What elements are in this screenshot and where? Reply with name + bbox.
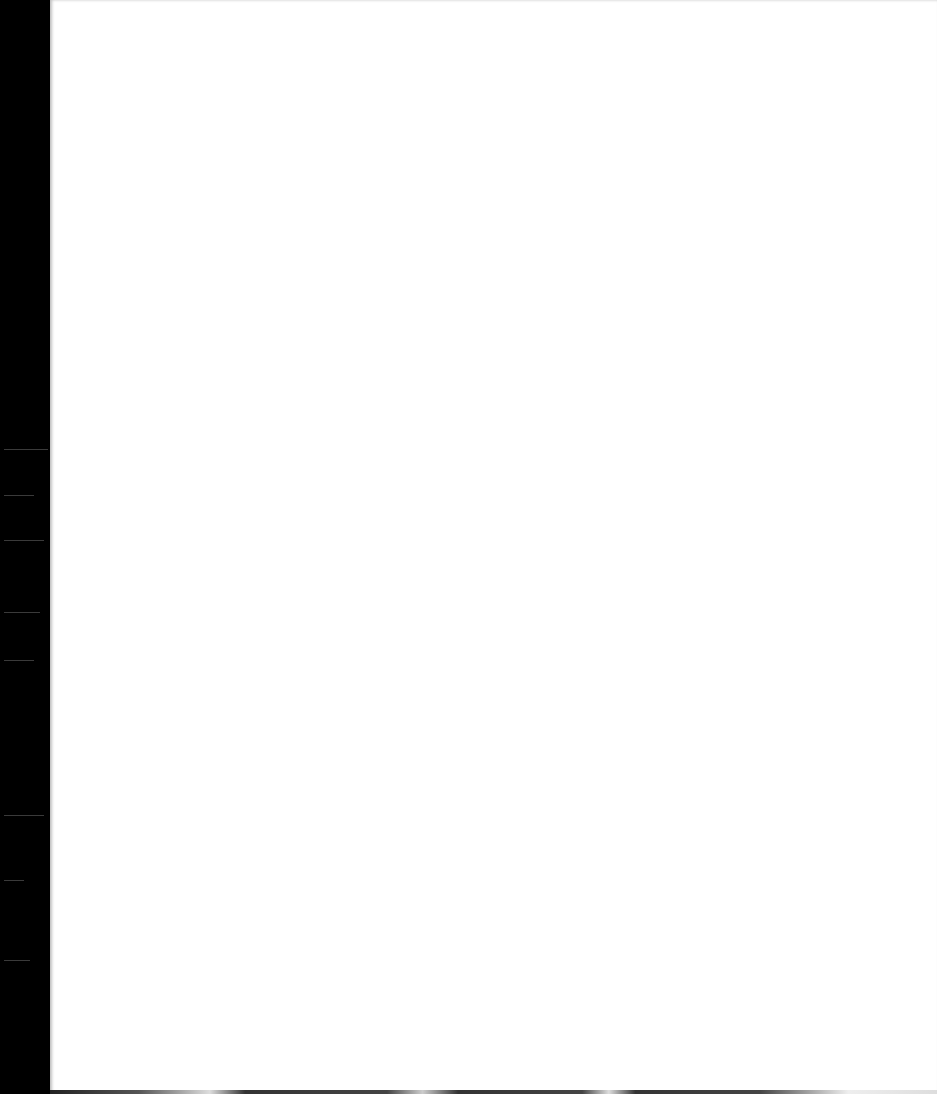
scan-edge-left: [0, 0, 50, 1094]
scan-streak: [4, 612, 40, 613]
scan-streak: [4, 815, 44, 816]
blank-page: [50, 0, 937, 1094]
scan-streak: [4, 880, 24, 881]
scan-streak: [4, 660, 34, 661]
page-content: [110, 60, 877, 1034]
scan-streak: [4, 960, 30, 961]
scan-streak: [4, 540, 44, 541]
scan-streak: [4, 449, 48, 450]
scan-edge-bottom: [50, 1090, 937, 1094]
scan-streak: [4, 495, 34, 496]
